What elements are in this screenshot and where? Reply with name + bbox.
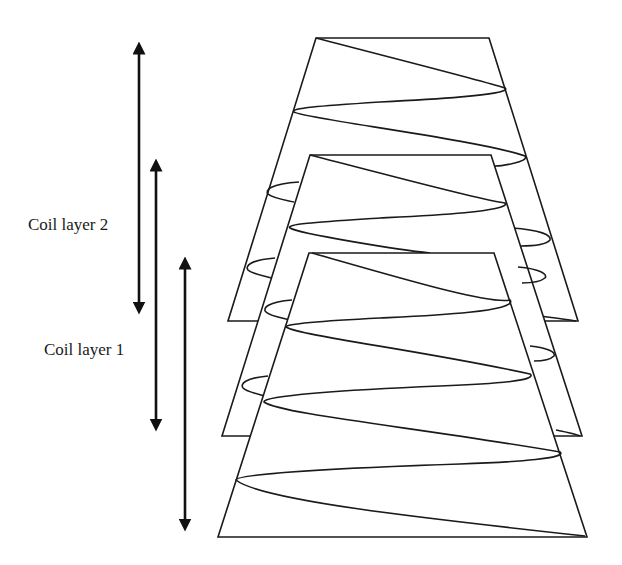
- coil-layer-2-label: Coil layer 2: [28, 215, 108, 235]
- extent-arrows: [139, 48, 185, 525]
- coil-diagram: [0, 0, 622, 565]
- coil-layer-1-label: Coil layer 1: [44, 340, 124, 360]
